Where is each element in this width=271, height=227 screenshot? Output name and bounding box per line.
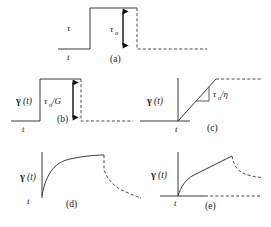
panel-e-recovery-curve-dashed: [232, 156, 263, 178]
panel-c: γ (t) t τ o /η (c): [140, 78, 261, 134]
svg-text:τ: τ: [213, 89, 217, 99]
panel-b-caption: (b): [57, 114, 68, 125]
panel-e-strain-axis-label: γ (t): [150, 169, 167, 181]
svg-text:/η: /η: [220, 89, 229, 99]
panel-d: γ (t) t (d): [19, 152, 141, 210]
svg-text:/G: /G: [51, 96, 62, 106]
svg-text:γ: γ: [150, 169, 156, 180]
panel-a: τ t τ o (a): [58, 8, 207, 65]
panel-a-stress-axis-label: τ: [67, 23, 71, 33]
panel-c-time-axis-label: t: [175, 124, 178, 134]
svg-text:γ: γ: [146, 95, 152, 106]
panel-c-caption: (c): [207, 123, 218, 134]
panel-a-stress-step-dashed: [137, 8, 207, 49]
panel-a-caption: (a): [110, 54, 121, 65]
panel-e-creep-flow-curve-solid: [178, 156, 232, 196]
panel-c-tau-o-over-eta-label: τ o /η: [213, 89, 229, 101]
panel-c-strain-axis-label: γ (t): [146, 95, 163, 107]
svg-text:(t): (t): [158, 170, 167, 181]
svg-text:τ: τ: [44, 96, 48, 106]
panel-b: γ (t) t τ o /G (b): [11, 79, 133, 134]
panel-d-creep-curve-solid: [42, 155, 104, 196]
svg-text:(t): (t): [154, 96, 163, 107]
svg-text:o: o: [115, 29, 119, 36]
panel-d-strain-axis-label: γ (t): [19, 171, 36, 183]
panel-e-caption: (e): [205, 201, 216, 212]
panel-d-recovery-curve-dashed: [104, 155, 141, 198]
figure-container: τ t τ o (a) γ (t) t τ o /G (b): [0, 0, 271, 227]
panel-c-strain-ramp-solid: [178, 79, 216, 121]
panel-b-strain-axis-label: γ (t): [15, 95, 32, 107]
svg-text:(t): (t): [23, 96, 32, 107]
panel-e-time-axis-label: t: [174, 198, 177, 208]
panel-e: γ (t) t (e): [150, 152, 263, 212]
svg-text:γ: γ: [15, 95, 21, 106]
panel-d-caption: (d): [66, 199, 77, 210]
viscoelastic-response-figure: τ t τ o (a) γ (t) t τ o /G (b): [0, 0, 271, 227]
panel-b-tau-o-over-g-label: τ o /G: [44, 96, 62, 108]
panel-d-time-axis-label: t: [27, 196, 30, 206]
panel-a-tau-o-label: τ o: [110, 24, 119, 36]
svg-text:τ: τ: [110, 24, 114, 34]
panel-b-time-axis-label: t: [22, 124, 25, 134]
panel-a-time-axis-label: t: [67, 52, 70, 62]
panel-b-strain-step-dashed: [81, 79, 133, 121]
svg-text:γ: γ: [19, 171, 25, 182]
svg-text:(t): (t): [27, 172, 36, 183]
